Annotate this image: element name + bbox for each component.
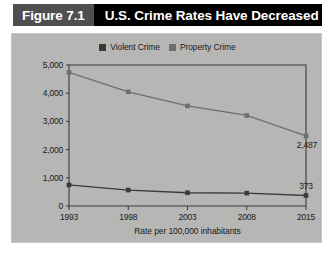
chart-svg: 01,0002,0003,0004,0005,00019931998200320… bbox=[12, 34, 323, 244]
x-axis-tick-label: 1993 bbox=[60, 212, 79, 222]
data-point-marker bbox=[185, 104, 190, 109]
y-axis-tick-label: 3,000 bbox=[43, 116, 64, 126]
x-axis-tick-label: 2015 bbox=[297, 212, 316, 222]
y-axis-tick-label: 2,000 bbox=[43, 145, 64, 155]
data-point-marker bbox=[126, 188, 131, 193]
data-point-marker bbox=[185, 190, 190, 195]
y-axis-tick-label: 5,000 bbox=[43, 60, 64, 70]
data-point-marker bbox=[304, 193, 309, 198]
figure-title: U.S. Crime Rates Have Decreased bbox=[94, 4, 319, 26]
data-point-marker bbox=[67, 70, 72, 75]
data-point-label: 2,487 bbox=[297, 140, 318, 150]
x-axis-tick-label: 2003 bbox=[178, 212, 197, 222]
data-point-label: 373 bbox=[299, 181, 313, 191]
data-point-marker bbox=[67, 183, 72, 188]
figure-container: Figure 7.1 U.S. Crime Rates Have Decreas… bbox=[0, 0, 335, 258]
y-axis-tick-label: 0 bbox=[58, 201, 63, 211]
figure-number-tag: Figure 7.1 bbox=[13, 4, 94, 26]
data-point-marker bbox=[126, 89, 131, 94]
figure-header: Figure 7.1 U.S. Crime Rates Have Decreas… bbox=[13, 4, 322, 26]
data-point-marker bbox=[304, 134, 309, 139]
x-axis-title: Rate per 100,000 inhabitants bbox=[134, 226, 240, 236]
y-axis-tick-label: 1,000 bbox=[43, 173, 64, 183]
x-axis-tick-label: 2008 bbox=[238, 212, 257, 222]
plot-area: 01,0002,0003,0004,0005,00019931998200320… bbox=[12, 34, 323, 244]
data-point-marker bbox=[244, 113, 249, 118]
y-axis-tick-label: 4,000 bbox=[43, 88, 64, 98]
x-axis-tick-label: 1998 bbox=[119, 212, 138, 222]
data-point-marker bbox=[244, 191, 249, 196]
chart-panel: Violent Crime Property Crime 01,0002,000… bbox=[11, 33, 322, 243]
